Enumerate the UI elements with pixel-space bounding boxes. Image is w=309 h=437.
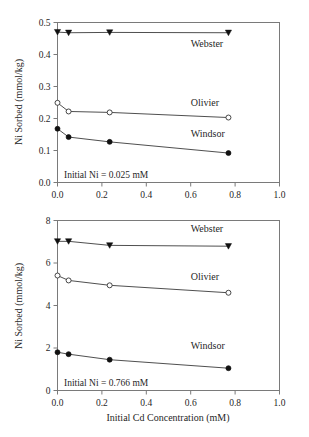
marker-olivier — [226, 290, 231, 295]
marker-windsor — [107, 139, 112, 144]
x-tick-label: 0.8 — [229, 190, 241, 200]
x-tick-label: 0.4 — [140, 190, 152, 200]
top-annotation: Initial Ni = 0.025 mM — [64, 170, 149, 180]
series-label-windsor: Windsor — [191, 340, 226, 351]
x-tick-label: 1.0 — [274, 190, 286, 200]
top-x-axis-ticks — [58, 183, 280, 187]
bottom-y-tick-labels: 02468 — [46, 216, 51, 396]
top-y-axis-title: Ni Sorbed (mmol/kg) — [13, 59, 25, 145]
chart-panel-top: 0.00.10.20.30.40.5 0.00.20.40.60.81.0 We… — [0, 0, 309, 210]
x-tick-label: 0.2 — [96, 190, 108, 200]
chart-panel-bottom: 02468 0.00.20.40.60.81.0 WebsterOlivierW… — [0, 210, 309, 437]
bottom-chart-svg: 02468 0.00.20.40.60.81.0 WebsterOlivierW… — [0, 210, 309, 437]
series-label-windsor: Windsor — [191, 128, 226, 139]
top-y-tick-labels: 0.00.10.20.30.40.5 — [39, 18, 51, 188]
top-x-tick-labels: 0.00.20.40.60.81.0 — [52, 190, 286, 200]
bottom-x-axis-ticks — [58, 391, 280, 395]
marker-olivier — [226, 115, 231, 120]
marker-windsor — [226, 366, 231, 371]
y-tick-label: 0.3 — [39, 82, 51, 92]
marker-olivier — [66, 278, 71, 283]
y-tick-label: 6 — [46, 258, 51, 268]
marker-windsor — [55, 350, 60, 355]
y-tick-label: 2 — [46, 343, 51, 353]
bottom-series-labels: WebsterOlivierWindsor — [191, 223, 226, 351]
marker-windsor — [226, 151, 231, 156]
x-tick-label: 1.0 — [274, 398, 286, 408]
marker-windsor — [66, 352, 71, 357]
marker-olivier — [107, 110, 112, 115]
marker-windsor — [66, 135, 71, 140]
x-tick-label: 0.6 — [185, 398, 197, 408]
x-tick-label: 0.6 — [185, 190, 197, 200]
y-tick-label: 8 — [46, 216, 51, 226]
bottom-x-tick-labels: 0.00.20.40.60.81.0 — [52, 398, 286, 408]
marker-olivier — [55, 273, 60, 278]
y-tick-label: 0 — [46, 386, 51, 396]
top-chart-svg: 0.00.10.20.30.40.5 0.00.20.40.60.81.0 We… — [0, 0, 309, 210]
top-series-labels: WebsterOlivierWindsor — [191, 38, 226, 140]
series-label-webster: Webster — [191, 223, 224, 234]
series-line-webster — [58, 32, 229, 33]
y-tick-label: 4 — [46, 301, 51, 311]
bottom-y-axis-title: Ni Sorbed (mmol/kg) — [13, 263, 25, 349]
x-tick-label: 0.0 — [52, 190, 64, 200]
x-tick-label: 0.8 — [229, 398, 241, 408]
marker-olivier — [107, 283, 112, 288]
marker-olivier — [55, 100, 60, 105]
series-line-webster — [58, 241, 229, 246]
x-tick-label: 0.2 — [96, 398, 108, 408]
series-label-olivier: Olivier — [191, 271, 220, 282]
bottom-annotation: Initial Ni = 0.766 mM — [64, 378, 149, 388]
y-tick-label: 0.0 — [39, 178, 51, 188]
x-tick-label: 0.4 — [140, 398, 152, 408]
figure-container: 0.00.10.20.30.40.5 0.00.20.40.60.81.0 We… — [0, 0, 309, 437]
marker-windsor — [55, 126, 60, 131]
series-label-webster: Webster — [191, 38, 224, 49]
y-tick-label: 0.5 — [39, 18, 51, 28]
marker-olivier — [66, 109, 71, 114]
y-tick-label: 0.4 — [39, 50, 51, 60]
series-label-olivier: Olivier — [191, 97, 220, 108]
series-line-windsor — [58, 352, 229, 368]
x-tick-label: 0.0 — [52, 398, 64, 408]
y-tick-label: 0.1 — [39, 146, 51, 156]
bottom-y-axis-ticks — [54, 221, 58, 391]
y-tick-label: 0.2 — [39, 114, 51, 124]
bottom-x-axis-title: Initial Cd Concentration (mM) — [106, 412, 229, 424]
top-plot-frame — [58, 23, 280, 183]
marker-windsor — [107, 357, 112, 362]
